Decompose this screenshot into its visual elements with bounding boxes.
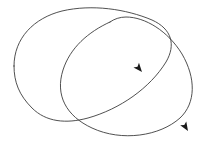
loop-diagram-svg [0,0,201,142]
figure-canvas [0,0,201,142]
canvas-background [0,0,201,142]
